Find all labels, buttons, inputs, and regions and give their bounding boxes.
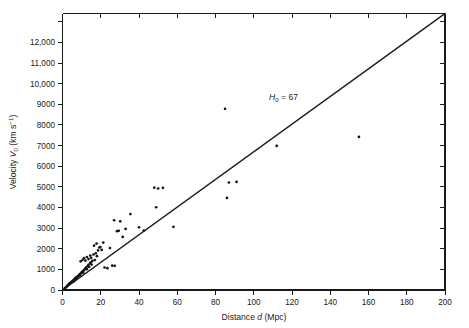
data-point <box>91 260 94 263</box>
y-tick-label: 10,000 <box>30 80 55 89</box>
data-point <box>119 220 122 223</box>
x-tick-label: 200 <box>438 298 452 307</box>
x-tick-label: 120 <box>285 298 299 307</box>
y-tick-label: 6000 <box>37 162 56 171</box>
hubble-constant-label: H0 = 67 <box>269 92 298 103</box>
data-point <box>172 226 175 229</box>
data-point <box>358 136 361 139</box>
data-point <box>93 259 96 262</box>
data-point <box>228 181 231 184</box>
data-point <box>162 187 165 190</box>
data-point <box>93 244 96 247</box>
data-point <box>90 256 93 259</box>
data-point <box>109 247 112 250</box>
hubble-diagram-figure: 020406080100120140160180200 010002000300… <box>0 0 469 328</box>
data-point <box>83 257 86 260</box>
scatter-plot-canvas: 020406080100120140160180200 010002000300… <box>0 0 469 328</box>
y-tick-label: 0 <box>50 286 55 295</box>
y-tick-label: 8000 <box>37 121 56 130</box>
data-point <box>95 242 98 245</box>
x-axis-title: Distance d (Mpc) <box>222 312 287 322</box>
data-point <box>275 145 278 148</box>
data-point <box>155 206 158 209</box>
data-point <box>129 213 132 216</box>
y-tick-label: 1000 <box>37 265 56 274</box>
data-point <box>224 107 227 110</box>
data-point <box>94 252 97 255</box>
data-point <box>100 249 103 252</box>
hubble-law-fit <box>63 14 446 291</box>
data-point <box>84 259 87 262</box>
x-tick-label: 0 <box>60 298 65 307</box>
data-point <box>153 186 156 189</box>
data-point <box>87 258 90 261</box>
y-tick-label: 9000 <box>37 100 56 109</box>
data-point <box>92 253 95 256</box>
data-point <box>85 268 88 271</box>
data-point <box>88 266 91 269</box>
data-point <box>121 236 124 239</box>
data-point <box>111 264 114 267</box>
data-point <box>96 255 99 258</box>
x-tick-label: 60 <box>173 298 183 307</box>
y-tick-label: 11,000 <box>31 59 56 68</box>
regression-line <box>63 14 446 291</box>
x-tick-label: 80 <box>211 298 221 307</box>
data-point <box>226 197 229 200</box>
data-point <box>102 241 105 244</box>
data-point-series <box>63 107 360 289</box>
data-point <box>99 246 102 249</box>
data-point <box>138 226 141 229</box>
y-axis-ticks <box>58 22 446 290</box>
y-tick-label: 7000 <box>37 142 56 151</box>
y-tick-label: 5000 <box>37 183 56 192</box>
data-point <box>124 228 127 231</box>
data-point <box>97 249 100 252</box>
y-axis-title: Velocity V0 (km s−1) <box>7 115 19 190</box>
y-axis-tick-labels: 010002000300040005000600070008000900010,… <box>30 38 55 295</box>
x-tick-label: 160 <box>362 298 376 307</box>
y-tick-label: 12,000 <box>30 38 55 47</box>
y-tick-label: 2000 <box>37 245 56 254</box>
data-point <box>103 266 106 269</box>
x-axis-tick-labels: 020406080100120140160180200 <box>60 298 452 307</box>
data-point <box>113 219 116 222</box>
x-tick-label: 100 <box>247 298 261 307</box>
data-point <box>117 229 120 232</box>
data-point <box>157 187 160 190</box>
x-tick-label: 180 <box>400 298 414 307</box>
y-tick-label: 4000 <box>37 203 56 212</box>
data-point <box>235 181 238 184</box>
chart-annotations: H0 = 67 <box>269 92 298 103</box>
data-point <box>90 263 93 266</box>
x-tick-label: 40 <box>134 298 144 307</box>
data-point <box>113 265 116 268</box>
y-tick-label: 3000 <box>37 224 56 233</box>
x-tick-label: 20 <box>96 298 106 307</box>
data-point <box>106 267 109 270</box>
x-tick-label: 140 <box>323 298 337 307</box>
